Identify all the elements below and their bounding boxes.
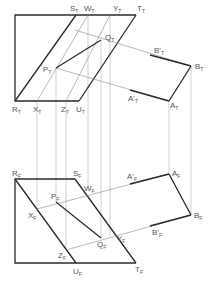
label-u-top: UT <box>76 105 85 115</box>
front-edge-ab <box>169 174 191 215</box>
projection-diagram: ST WT YT TT QT PT B'T BT RT XT ZT UT A'T… <box>0 0 212 287</box>
label-u-front: UF <box>73 267 82 277</box>
top-view-frame <box>15 15 136 101</box>
label-s-top: ST <box>70 4 78 14</box>
front-line-pq <box>56 202 101 238</box>
top-line-pq <box>56 40 101 68</box>
top-line-b-thick <box>150 55 191 66</box>
label-b-front: BF <box>194 211 202 221</box>
front-view-frame <box>15 179 136 263</box>
label-q-top: QT <box>105 33 114 43</box>
label-b-prime-top: B'T <box>154 46 164 56</box>
label-b-prime-front: B'F <box>152 228 162 238</box>
label-t-top: TT <box>137 4 145 14</box>
top-line-xw <box>37 15 88 101</box>
label-q-front: QF <box>97 240 106 250</box>
label-x-top: XT <box>33 105 41 115</box>
label-z-top: ZT <box>61 105 69 115</box>
label-p-front: PF <box>51 192 59 202</box>
top-edge-rs <box>15 15 76 101</box>
top-edge-ab <box>169 66 191 101</box>
front-edge-ru <box>15 179 76 263</box>
label-r-top: RT <box>12 105 21 115</box>
label-x-front: XF <box>28 211 36 221</box>
top-edge-ut <box>79 15 136 101</box>
label-w-top: WT <box>84 4 95 14</box>
label-y-front: YF <box>117 234 125 244</box>
label-z-front: ZF <box>58 251 66 261</box>
top-view <box>15 15 191 101</box>
projection-lines <box>37 15 191 250</box>
front-line-b-thick <box>150 215 191 226</box>
label-y-top: YT <box>113 4 121 14</box>
label-a-front: AF <box>172 169 180 179</box>
label-a-top: AT <box>170 101 178 111</box>
label-r-front: RF <box>12 169 21 179</box>
label-s-front: SF <box>73 169 81 179</box>
label-t-front: TF <box>135 265 143 275</box>
label-w-front: WF <box>84 184 95 194</box>
top-view-labels: ST WT YT TT QT PT B'T BT RT XT ZT UT A'T… <box>12 4 203 115</box>
top-line-b-prime <box>75 30 191 66</box>
label-b-top: BT <box>195 62 203 72</box>
label-a-prime-front: A'F <box>127 172 137 182</box>
label-p-top: PT <box>43 65 51 75</box>
label-a-prime-top: A'T <box>128 94 138 104</box>
